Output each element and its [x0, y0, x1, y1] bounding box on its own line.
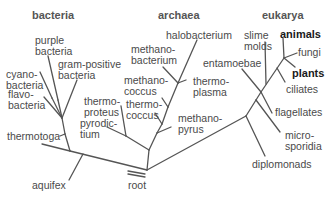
root-marker-2	[128, 174, 145, 177]
label-animals: animals	[280, 29, 321, 40]
label-aquifex: aquifex	[32, 180, 66, 191]
label-halobacterium: halobacterium	[166, 30, 232, 41]
label-root: root	[128, 180, 146, 191]
label-slime-molds: slime molds	[244, 30, 272, 51]
branch-animals	[283, 38, 284, 58]
label-thermococcus: thermo- coccus	[126, 99, 162, 120]
label-fungi: fungi	[298, 47, 321, 58]
label-pyrodictium: pyrodic- tium	[80, 118, 117, 139]
archaea-trunk	[147, 150, 149, 170]
root-marker	[128, 171, 145, 174]
branch-diplomonads	[246, 116, 265, 156]
bacteria-stem	[65, 134, 70, 151]
eukarya-up-2	[256, 92, 261, 100]
label-methanococcus: methano- coccus	[124, 75, 168, 96]
branch-gram-positive	[62, 80, 77, 118]
bacteria-stem-2	[62, 118, 65, 134]
header-bacteria: bacteria	[32, 9, 74, 21]
branch-thermotoga	[60, 134, 65, 136]
eukarya-up	[246, 100, 256, 116]
label-thermoproteus: thermo- proteus	[84, 96, 120, 117]
archaea-up-3	[162, 107, 168, 124]
header-eukarya: eukarya	[262, 9, 304, 21]
label-gram-positive-bacteria: gram-positive bacteria	[58, 59, 121, 80]
branch-methanococcus	[162, 98, 168, 107]
bacteria-trunk	[70, 151, 147, 170]
label-cyanobacteria: cyano- bacteria	[6, 69, 43, 90]
label-microsporidia: micro- sporidia	[285, 130, 322, 151]
header-archaea: archaea	[158, 9, 200, 21]
label-plants: plants	[292, 68, 324, 79]
label-methanopyrus: methano- pyrus	[178, 113, 222, 134]
branch-plants	[284, 58, 295, 67]
label-thermoplasma: thermo- plasma	[193, 76, 229, 97]
label-ciliates: ciliates	[286, 84, 318, 95]
branch-ciliates	[277, 68, 285, 82]
branch-aquifex	[69, 154, 83, 180]
phylogenetic-tree-diagram: bacteria archaea eukarya purple bacteria…	[0, 0, 329, 199]
bacteria-trunk-2	[42, 144, 70, 151]
label-flavobacteria: flavo- bacteria	[8, 89, 45, 110]
label-methanobacterium: methano- bacterium	[131, 44, 177, 65]
label-diplomonads: diplomonads	[252, 159, 312, 170]
label-purple-bacteria: purple bacteria	[35, 35, 72, 56]
label-thermotoga: thermotoga	[7, 131, 60, 142]
archaea-up	[149, 133, 157, 150]
label-entamoebae: entamoebae	[203, 58, 261, 69]
label-flagellates: flagellates	[275, 107, 322, 118]
archaea-left	[126, 136, 149, 150]
branch-fungi	[284, 53, 297, 58]
branch-entamoebae	[242, 69, 261, 92]
archaea-up-4	[168, 83, 178, 107]
